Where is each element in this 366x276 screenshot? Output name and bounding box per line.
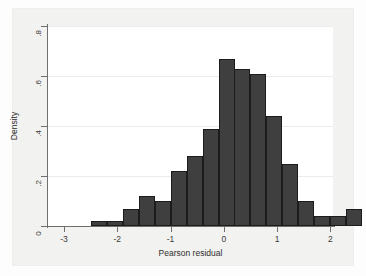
x-tick-4 <box>277 227 278 232</box>
histogram-bar <box>346 209 362 227</box>
histogram-bar <box>298 201 314 226</box>
y-axis-line <box>47 24 48 228</box>
x-tick-0 <box>64 227 65 232</box>
histogram-bar <box>123 209 139 227</box>
x-tick-label-1: -2 <box>107 234 127 244</box>
histogram-bar <box>219 59 235 227</box>
gridline-y-4 <box>48 26 333 27</box>
y-tick-label-3: .6 <box>34 76 43 92</box>
x-tick-5 <box>330 227 331 232</box>
y-axis-title: Density <box>9 112 19 140</box>
histogram-bar <box>330 216 346 226</box>
x-axis-line <box>47 226 335 227</box>
x-axis-title: Pearson residual <box>48 248 333 258</box>
x-tick-label-4: 1 <box>267 234 287 244</box>
x-tick-label-2: -1 <box>161 234 181 244</box>
gridline-y-3 <box>48 76 333 77</box>
y-tick-label-1: .2 <box>34 176 43 192</box>
x-tick-2 <box>171 227 172 232</box>
histogram-bar <box>155 201 171 226</box>
histogram-figure: 0.2.4.6.8 -3-2-1012 Pearson residual Den… <box>0 0 366 276</box>
histogram-bar <box>250 74 266 227</box>
histogram-bar <box>139 196 155 226</box>
histogram-bar <box>234 69 250 227</box>
x-tick-label-3: 0 <box>214 234 234 244</box>
x-tick-label-5: 2 <box>320 234 340 244</box>
x-tick-3 <box>224 227 225 232</box>
gridline-y-2 <box>48 126 333 127</box>
histogram-bar <box>282 164 298 227</box>
histogram-bar <box>203 129 219 227</box>
y-tick-label-2: .4 <box>34 126 43 142</box>
histogram-bar <box>266 116 282 226</box>
histogram-bar <box>171 171 187 226</box>
y-tick-label-4: .8 <box>34 26 43 42</box>
histogram-bar <box>187 156 203 226</box>
histogram-bar <box>314 216 330 226</box>
x-tick-label-0: -3 <box>54 234 74 244</box>
x-tick-1 <box>117 227 118 232</box>
y-tick-label-0: 0 <box>34 226 43 242</box>
